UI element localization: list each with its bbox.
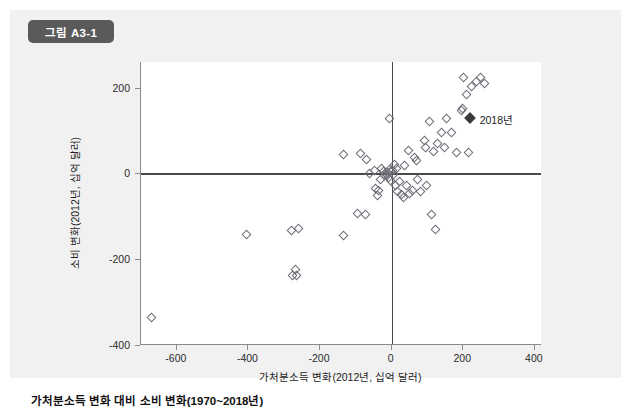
scatter-point xyxy=(436,127,446,137)
scatter-point xyxy=(146,313,156,323)
scatter-point xyxy=(459,72,469,82)
figure-number-badge: 그림 A3-1 xyxy=(28,20,114,43)
x-axis-tick xyxy=(176,345,177,350)
x-axis-tick xyxy=(462,345,463,350)
point-annotation-label: 2018년 xyxy=(480,112,513,127)
y-axis-tick xyxy=(135,259,140,260)
scatter-point xyxy=(294,224,304,234)
figure-container: 그림 A3-1 -600-400-2000200400-400-2000200 … xyxy=(0,0,631,420)
y-axis-tick xyxy=(135,88,140,89)
x-axis-tick xyxy=(247,345,248,350)
x-axis-tick-label: 0 xyxy=(388,352,394,364)
scatter-point xyxy=(242,229,252,239)
x-axis-tick-label: 400 xyxy=(525,352,543,364)
y-axis-tick-label: -400 xyxy=(0,339,130,351)
horizontal-zero-reference-line xyxy=(141,173,541,175)
figure-caption: 가처분소득 변화 대비 소비 변화(1970~2018년) xyxy=(31,392,263,408)
x-axis-tick-label: -600 xyxy=(165,352,186,364)
x-axis-tick-label: -200 xyxy=(309,352,330,364)
y-axis-tick-label: -200 xyxy=(0,253,130,265)
scatter-point xyxy=(338,231,348,241)
scatter-point xyxy=(430,225,440,235)
y-axis-title: 소비 변화(2012년, 십억 달러) xyxy=(67,137,82,269)
y-axis-tick-label: 200 xyxy=(0,82,130,94)
scatter-point xyxy=(439,143,449,153)
plot-canvas xyxy=(141,62,541,344)
x-axis-tick xyxy=(534,345,535,350)
x-axis-tick xyxy=(391,345,392,350)
scatter-point xyxy=(441,114,451,124)
x-axis-tick xyxy=(319,345,320,350)
y-axis-tick xyxy=(135,173,140,174)
scatter-point xyxy=(451,148,461,158)
scatter-point xyxy=(480,79,490,89)
x-axis-tick-label: 200 xyxy=(453,352,471,364)
scatter-point xyxy=(338,149,348,159)
y-axis-tick-label: 0 xyxy=(0,167,130,179)
vertical-zero-reference-line xyxy=(392,62,394,344)
scatter-point xyxy=(424,116,434,126)
scatter-point xyxy=(464,148,474,158)
scatter-point xyxy=(446,127,456,137)
scatter-point xyxy=(362,154,372,164)
scatter-point xyxy=(426,210,436,220)
x-axis-tick-label: -400 xyxy=(237,352,258,364)
plot-area xyxy=(140,62,541,345)
y-axis-tick xyxy=(135,345,140,346)
x-axis-title: 가처분소득 변화(2012년, 십억 달러) xyxy=(140,369,541,384)
scatter-point xyxy=(412,174,422,184)
scatter-point xyxy=(361,210,371,220)
highlighted-scatter-point-2018 xyxy=(464,112,475,123)
scatter-point xyxy=(385,114,395,124)
